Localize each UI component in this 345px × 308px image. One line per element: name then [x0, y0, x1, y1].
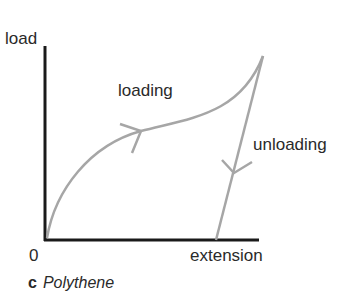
caption-letter: c	[28, 274, 37, 291]
x-axis-label: extension	[190, 247, 263, 264]
unloading-label: unloading	[253, 136, 327, 153]
caption-title: Polythene	[43, 274, 114, 291]
y-axis-label: load	[5, 30, 37, 47]
load-extension-diagram	[0, 0, 345, 308]
figure-caption: cPolythene	[28, 275, 114, 291]
loading-label: loading	[118, 82, 173, 99]
origin-label: 0	[29, 247, 38, 264]
